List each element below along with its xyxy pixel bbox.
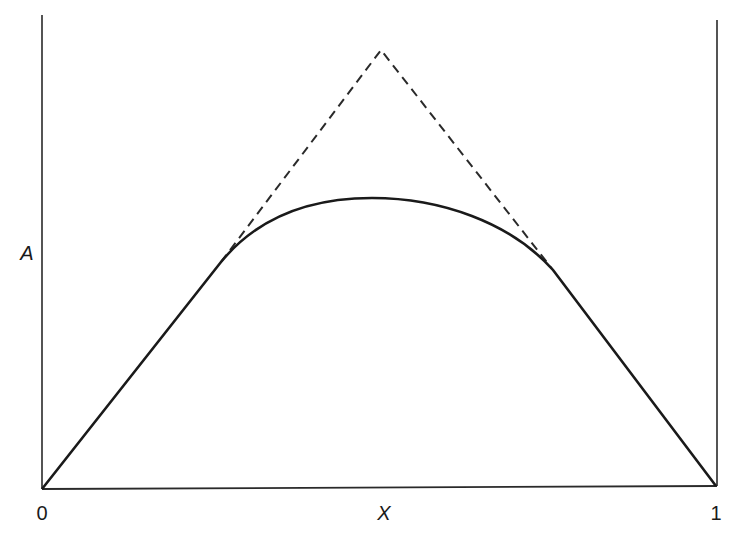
x-axis-label: X (377, 503, 390, 523)
dashed-tent-line (221, 50, 553, 270)
solid-curve (42, 198, 716, 489)
chart-canvas (0, 0, 739, 534)
y-axis-label: A (20, 243, 33, 263)
x-tick-max: 1 (710, 503, 721, 523)
x-tick-min: 0 (36, 503, 47, 523)
bottom-axis (42, 486, 717, 489)
